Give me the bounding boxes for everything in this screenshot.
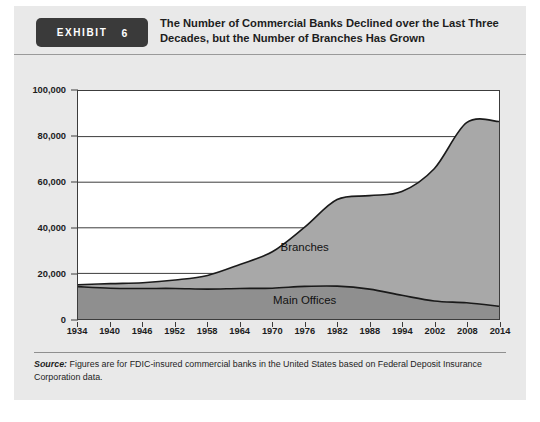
chart-area: 020,00040,00060,00080,000100,000 Branche…	[14, 60, 526, 342]
x-tick-label: 1958	[197, 326, 218, 336]
x-tick-mark	[110, 322, 111, 327]
y-tick-label: 0	[61, 315, 66, 325]
y-tick-label: 20,000	[38, 269, 66, 279]
footer-divider	[34, 352, 506, 353]
y-tick-label: 40,000	[38, 223, 66, 233]
source-text: Figures are for FDIC-insured commercial …	[34, 359, 482, 382]
y-tick-label: 60,000	[38, 177, 66, 187]
x-tick-mark	[500, 322, 501, 327]
x-tick-label: 1982	[327, 326, 348, 336]
y-tick-label: 80,000	[38, 131, 66, 141]
x-tick-mark	[272, 322, 273, 327]
source-note: Source: Figures are for FDIC-insured com…	[34, 358, 508, 383]
exhibit-badge-label: EXHIBIT	[57, 27, 108, 38]
exhibit-badge-number: 6	[121, 27, 127, 39]
x-tick-mark	[435, 322, 436, 327]
x-tick-label: 2008	[457, 326, 478, 336]
x-tick-mark	[240, 322, 241, 327]
x-tick-label: 1946	[132, 326, 153, 336]
x-tick-mark	[305, 322, 306, 327]
x-tick-mark	[175, 322, 176, 327]
x-tick-label: 1934	[67, 326, 88, 336]
header-divider	[14, 54, 526, 55]
x-tick-label: 1970	[262, 326, 283, 336]
y-tick-label: 100,000	[32, 85, 66, 95]
exhibit-header: EXHIBIT 6 The Number of Commercial Banks…	[14, 6, 526, 58]
y-axis: 020,00040,00060,00080,000100,000	[14, 90, 72, 320]
exhibit-badge: EXHIBIT 6	[36, 18, 148, 47]
exhibit-figure: EXHIBIT 6 The Number of Commercial Banks…	[0, 0, 540, 422]
series-annotation: Main Offices	[273, 294, 337, 306]
exhibit-title: The Number of Commercial Banks Declined …	[160, 16, 510, 45]
x-tick-mark	[467, 322, 468, 327]
x-tick-label: 1988	[360, 326, 381, 336]
x-tick-mark	[77, 322, 78, 327]
stacked-area-chart: BranchesMain Offices	[78, 91, 499, 319]
x-tick-label: 1964	[229, 326, 250, 336]
x-tick-label: 1994	[392, 326, 413, 336]
x-tick-mark	[207, 322, 208, 327]
x-tick-label: 1952	[164, 326, 185, 336]
x-tick-mark	[370, 322, 371, 327]
plot-region: BranchesMain Offices	[77, 90, 500, 320]
x-tick-mark	[337, 322, 338, 327]
x-tick-label: 1976	[294, 326, 315, 336]
x-tick-label: 2002	[425, 326, 446, 336]
source-label: Source:	[34, 359, 67, 369]
x-tick-mark	[402, 322, 403, 327]
x-tick-mark	[142, 322, 143, 327]
x-tick-label: 2014	[490, 326, 511, 336]
x-tick-label: 1940	[99, 326, 120, 336]
x-axis: 1934194019461952195819641970197619821988…	[77, 322, 500, 342]
series-annotation: Branches	[281, 241, 330, 253]
